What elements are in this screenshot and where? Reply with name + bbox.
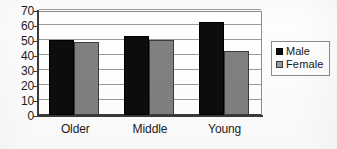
x-axis-tick-label: Older: [38, 122, 113, 136]
y-axis-tick-mark: [33, 101, 38, 102]
chart-legend: MaleFemale: [271, 41, 330, 76]
y-axis-tick-label: 20: [2, 80, 34, 92]
x-axis: OlderMiddleYoung: [38, 122, 262, 142]
y-axis: 706050403020100: [2, 5, 34, 117]
x-axis-tick-label: Middle: [113, 122, 188, 136]
bar-young-male: [199, 22, 224, 115]
y-axis-tick-mark: [33, 71, 38, 72]
x-axis-tick-label: Young: [187, 122, 262, 136]
bar-older-male: [49, 40, 74, 115]
bar-young-female: [224, 51, 249, 116]
bar-chart: 706050403020100 OlderMiddleYoung MaleFem…: [0, 0, 337, 149]
bar-group: [49, 12, 99, 115]
plot-area: [38, 11, 262, 116]
y-axis-tick-label: 70: [2, 5, 34, 17]
y-axis-tick-mark: [33, 26, 38, 27]
male-swatch: [276, 48, 283, 55]
bar-group: [199, 12, 249, 115]
gridline: [39, 9, 261, 10]
y-axis-tick-mark: [33, 11, 38, 12]
bar-middle-female: [149, 40, 174, 115]
y-axis-tick-mark: [33, 41, 38, 42]
bar-middle-male: [124, 36, 149, 116]
y-axis-tick-mark: [33, 56, 38, 57]
bars-layer: [39, 12, 261, 115]
y-axis-tick-label: 60: [2, 20, 34, 32]
legend-label: Female: [286, 59, 324, 70]
female-swatch: [276, 61, 283, 68]
y-axis-tick-label: 30: [2, 65, 34, 77]
y-axis-tick-mark: [33, 86, 38, 87]
y-axis-tick-label: 40: [2, 50, 34, 62]
y-axis-tick-label: 0: [2, 110, 34, 122]
y-axis-tick-mark: [33, 116, 38, 117]
y-axis-tick-label: 50: [2, 35, 34, 47]
bar-older-female: [74, 42, 99, 116]
legend-item-female: Female: [276, 58, 324, 71]
x-axis-line: [37, 115, 263, 117]
bar-group: [124, 12, 174, 115]
legend-item-male: Male: [276, 45, 324, 58]
legend-label: Male: [286, 46, 310, 57]
y-axis-tick-label: 10: [2, 95, 34, 107]
